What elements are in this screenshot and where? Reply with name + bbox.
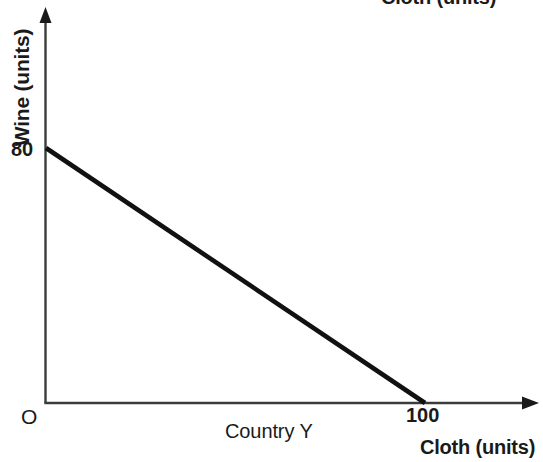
clipped-top-title: Cloth (units)	[381, 0, 496, 7]
ppf-chart-figure: Wine (units) 80 O 100 Country Y Cloth (u…	[0, 0, 543, 462]
origin-label: O	[21, 406, 37, 427]
chart-plot-area	[0, 0, 543, 462]
y-axis-title: Wine (units)	[11, 28, 32, 148]
y-axis-tick-label-80: 80	[11, 139, 33, 159]
ppf-line	[46, 148, 425, 403]
x-axis-tick-label-100: 100	[406, 405, 439, 425]
chart-caption: Country Y	[225, 421, 313, 441]
y-axis-arrowhead-icon	[40, 7, 52, 23]
x-axis-arrowhead-icon	[522, 397, 539, 410]
x-axis-title: Cloth (units)	[420, 437, 535, 457]
